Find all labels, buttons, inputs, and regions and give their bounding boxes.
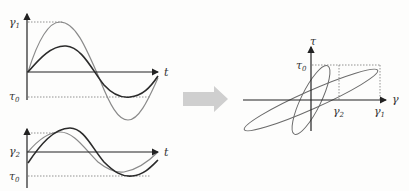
diagram-canvas: γ1 τ0 t γ2 τ0 t [0, 0, 409, 191]
right-arrow-icon [183, 86, 228, 112]
t-axis-label: t [164, 146, 169, 159]
tau0-label: τ0 [9, 90, 20, 104]
gamma1-tick-label: γ1 [374, 105, 385, 119]
tau0-tick-label: τ0 [296, 59, 307, 73]
bottom-left-plot: γ2 τ0 t [9, 128, 169, 188]
t-axis-label: t [164, 66, 169, 79]
top-left-plot: γ1 τ0 t [9, 14, 169, 120]
gamma2-tick-label: γ2 [333, 105, 345, 119]
tau0-label: τ0 [9, 170, 20, 184]
diagram-svg: γ1 τ0 t γ2 τ0 t [0, 0, 409, 191]
gamma2-label: γ2 [9, 145, 21, 159]
tau-axis-label: τ [310, 35, 317, 48]
hysteresis-plot: τ γ τ0 γ2 γ1 [241, 35, 399, 139]
gamma1-label: γ1 [9, 16, 20, 30]
gamma-axis-label: γ [392, 93, 399, 106]
strain-curve-gamma1 [28, 22, 158, 120]
